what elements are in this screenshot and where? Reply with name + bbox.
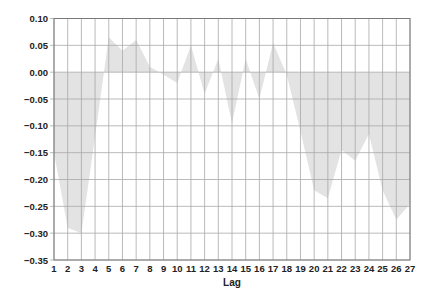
- x-tick-label: 22: [336, 263, 347, 274]
- x-axis-tick-labels: 1234567891011121314151617181920212223242…: [51, 263, 415, 274]
- x-axis-title: Lag: [223, 277, 241, 288]
- x-tick-label: 11: [186, 263, 197, 274]
- x-tick-label: 15: [240, 263, 251, 274]
- x-tick-label: 8: [147, 263, 152, 274]
- x-tick-label: 23: [350, 263, 361, 274]
- y-tick-label: −0.05: [24, 94, 49, 105]
- x-tick-label: 3: [79, 263, 84, 274]
- autocorrelation-chart: 0.100.050.00−0.05−0.10−0.15−0.20−0.25−0.…: [0, 0, 431, 304]
- x-tick-label: 16: [254, 263, 265, 274]
- x-tick-label: 26: [391, 263, 402, 274]
- y-tick-label: 0.10: [30, 13, 49, 24]
- x-tick-label: 9: [161, 263, 166, 274]
- x-tick-label: 12: [199, 263, 210, 274]
- x-tick-label: 24: [364, 263, 375, 274]
- x-tick-label: 27: [405, 263, 416, 274]
- x-tick-label: 18: [281, 263, 292, 274]
- x-tick-label: 5: [106, 263, 112, 274]
- x-tick-label: 14: [227, 263, 238, 274]
- x-tick-label: 25: [377, 263, 388, 274]
- x-tick-label: 19: [295, 263, 306, 274]
- x-tick-label: 1: [51, 263, 57, 274]
- y-tick-label: −0.10: [24, 120, 48, 131]
- x-tick-label: 17: [268, 263, 279, 274]
- x-tick-label: 13: [213, 263, 224, 274]
- y-tick-label: −0.30: [24, 228, 48, 239]
- x-tick-label: 21: [323, 263, 334, 274]
- y-tick-label: −0.35: [24, 255, 49, 266]
- y-tick-label: 0.00: [30, 67, 49, 78]
- x-tick-label: 10: [172, 263, 183, 274]
- y-axis-tick-labels: 0.100.050.00−0.05−0.10−0.15−0.20−0.25−0.…: [24, 13, 49, 266]
- x-tick-label: 6: [120, 263, 125, 274]
- x-tick-label: 2: [65, 263, 70, 274]
- y-tick-label: 0.05: [30, 40, 49, 51]
- y-tick-label: −0.15: [24, 147, 49, 158]
- y-tick-label: −0.25: [24, 201, 49, 212]
- y-tick-label: −0.20: [24, 174, 48, 185]
- x-tick-label: 4: [92, 263, 98, 274]
- x-tick-label: 7: [134, 263, 139, 274]
- x-tick-label: 20: [309, 263, 320, 274]
